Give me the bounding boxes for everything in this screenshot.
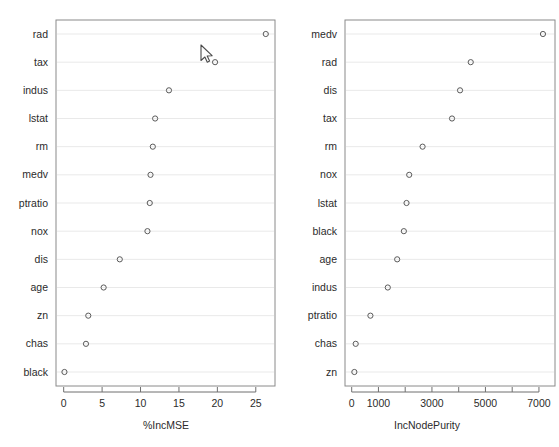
y-axis-category-label: ptratio [308,309,337,321]
y-axis-category-label: chas [26,337,48,349]
x-axis-tick-label: 20 [212,397,224,409]
y-axis-category-label: rad [33,28,48,40]
y-axis-category-label: rm [36,140,48,152]
y-axis-category-label: zn [326,366,337,378]
panel-incmse: radtaxinduslstatrmmedvptrationoxdisagezn… [0,0,290,447]
incmse-plot: radtaxinduslstatrmmedvptrationoxdisagezn… [0,0,290,447]
panel-incnodepurity: medvraddistaxrmnoxlstatblackageindusptra… [290,0,559,447]
y-axis-category-label: tax [323,112,338,124]
y-axis-category-label: medv [22,168,48,180]
y-axis-category-label: indus [312,281,337,293]
x-axis-title: IncNodePurity [394,419,461,431]
x-axis-tick-label: 0 [61,397,67,409]
y-axis-category-label: tax [34,56,49,68]
y-axis-category-label: age [319,253,337,265]
figure-canvas: radtaxinduslstatrmmedvptrationoxdisagezn… [0,0,559,447]
y-axis-category-label: dis [35,253,48,265]
y-axis-category-label: rm [325,140,337,152]
y-axis-category-label: dis [324,84,337,96]
x-axis-tick-label: 1000 [367,397,391,409]
y-axis-category-label: ptratio [19,197,48,209]
y-axis-category-label: lstat [29,112,48,124]
x-axis-tick-label: 5000 [474,397,498,409]
x-axis-tick-label: 10 [135,397,147,409]
x-axis-tick-label: 5 [99,397,105,409]
y-axis-category-label: chas [315,337,337,349]
x-axis-tick-label: 25 [250,397,262,409]
y-axis-category-label: lstat [318,197,337,209]
x-axis-tick-label: 0 [349,397,355,409]
x-axis-tick-label: 3000 [420,397,444,409]
y-axis-category-label: rad [322,56,337,68]
y-axis-category-label: indus [23,84,48,96]
y-axis-category-label: age [30,281,48,293]
x-axis-title: %IncMSE [143,419,189,431]
x-axis-tick-label: 7000 [527,397,551,409]
x-axis-tick-label: 15 [173,397,185,409]
y-axis-category-label: medv [311,28,337,40]
y-axis-category-label: zn [37,309,48,321]
y-axis-category-label: black [23,366,48,378]
y-axis-category-label: nox [31,225,49,237]
incnodepurity-plot: medvraddistaxrmnoxlstatblackageindusptra… [290,0,559,447]
y-axis-category-label: black [312,225,337,237]
y-axis-category-label: nox [320,168,338,180]
